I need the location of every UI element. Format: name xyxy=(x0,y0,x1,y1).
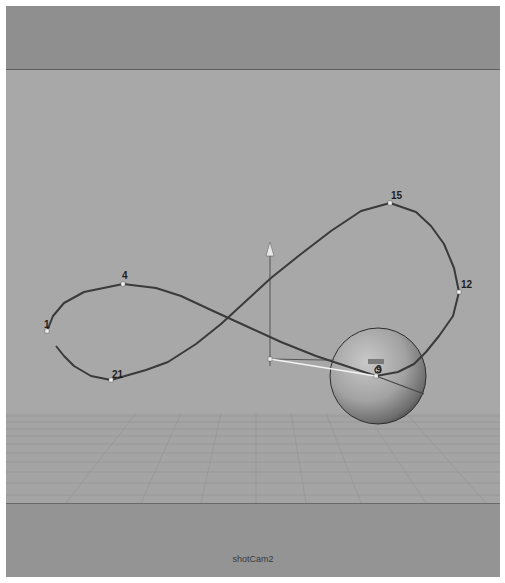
vertex-label-12: 12 xyxy=(461,279,473,290)
locator-origin[interactable] xyxy=(268,357,272,361)
vertex-12[interactable] xyxy=(457,290,461,294)
vertex-4[interactable] xyxy=(121,282,125,286)
vertex-label-15: 15 xyxy=(391,190,403,201)
up-arrow-icon xyxy=(266,242,274,256)
vertex-label-21: 21 xyxy=(112,369,124,380)
vertex-label-4: 4 xyxy=(122,270,128,281)
vertex-label-1: 1 xyxy=(44,319,50,330)
scene-canvas[interactable]: 1 4 15 12 9 21 xyxy=(6,6,500,577)
camera-name-label: shotCam2 xyxy=(6,554,500,564)
vertex-label-9: 9 xyxy=(376,364,382,375)
vertex-15[interactable] xyxy=(388,201,392,205)
ground-grid xyxy=(6,413,500,503)
3d-viewport[interactable]: 1 4 15 12 9 21 shotCam2 xyxy=(6,6,500,577)
